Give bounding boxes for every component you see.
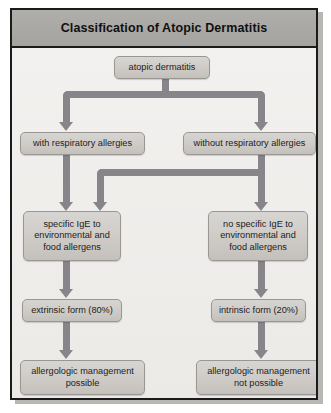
node-label: atopic dermatitis: [129, 62, 196, 74]
node-allergologic-management-possible[interactable]: allergologic management possible: [20, 360, 145, 395]
node-label-line1: no specific IgE to: [223, 219, 293, 231]
edge-cross-link-drop: [97, 176, 104, 204]
node-label: intrinsic form (20%): [219, 305, 298, 317]
edge-ige-neg-to-intrinsic: [258, 261, 265, 291]
edge-with-resp-to-ige-pos: [63, 155, 70, 204]
arrowhead-intrinsic-to-mgmt-no: [254, 350, 268, 359]
edge-root-to-without-resp: [258, 98, 265, 124]
node-intrinsic-form[interactable]: intrinsic form (20%): [211, 299, 306, 322]
edge-root-split-bar: [70, 91, 258, 98]
arrowhead-cross-link: [93, 202, 107, 211]
node-label-line2: environmental and: [34, 230, 110, 242]
arrowhead-ige-pos-to-extrinsic: [59, 289, 73, 298]
edge-cross-link-bar: [104, 169, 258, 176]
node-label-line1: specific IgE to: [43, 219, 100, 231]
node-label: with respiratory allergies: [33, 138, 132, 150]
node-with-respiratory-allergies[interactable]: with respiratory allergies: [20, 132, 145, 155]
node-label-line2: possible: [66, 378, 100, 390]
edge-root-to-with-resp: [63, 98, 70, 124]
arrowhead-without-resp-to-ige-neg: [254, 202, 268, 211]
node-no-specific-ige[interactable]: no specific IgE to environmental and foo…: [208, 211, 308, 261]
node-label: extrinsic form (80%): [31, 305, 113, 317]
node-label-line3: food allergens: [229, 242, 287, 254]
figure-frame: Classification of Atopic Dermatitis: [10, 8, 318, 400]
diagram-canvas: atopic dermatitis with respiratory aller…: [12, 48, 316, 398]
node-atopic-dermatitis[interactable]: atopic dermatitis: [114, 56, 210, 79]
figure-titlebar: Classification of Atopic Dermatitis: [12, 10, 316, 48]
node-extrinsic-form[interactable]: extrinsic form (80%): [22, 299, 122, 322]
node-label: without respiratory allergies: [194, 138, 306, 150]
arrowhead-root-to-with-resp: [59, 122, 73, 131]
node-label-line1: allergologic management: [207, 366, 310, 378]
edge-intrinsic-to-mgmt-no: [258, 322, 265, 352]
node-without-respiratory-allergies[interactable]: without respiratory allergies: [183, 132, 316, 155]
node-allergologic-management-not-possible[interactable]: allergologic management not possible: [196, 360, 316, 395]
edge-ige-pos-to-extrinsic: [63, 261, 70, 291]
node-specific-ige[interactable]: specific IgE to environmental and food a…: [23, 211, 121, 261]
edge-extrinsic-to-mgmt-yes: [63, 322, 70, 352]
figure-root: Classification of Atopic Dermatitis: [0, 0, 331, 413]
arrowhead-ige-neg-to-intrinsic: [254, 289, 268, 298]
arrowhead-extrinsic-to-mgmt-yes: [59, 350, 73, 359]
node-label-line2: not possible: [234, 378, 283, 390]
edge-without-resp-to-ige-neg: [258, 155, 265, 204]
arrowhead-with-resp-to-ige-pos: [59, 202, 73, 211]
node-label-line3: food allergens: [43, 242, 101, 254]
figure-title: Classification of Atopic Dermatitis: [61, 21, 268, 35]
node-label-line2: environmental and: [220, 230, 296, 242]
arrowhead-root-to-without-resp: [254, 122, 268, 131]
node-label-line1: allergologic management: [31, 366, 134, 378]
